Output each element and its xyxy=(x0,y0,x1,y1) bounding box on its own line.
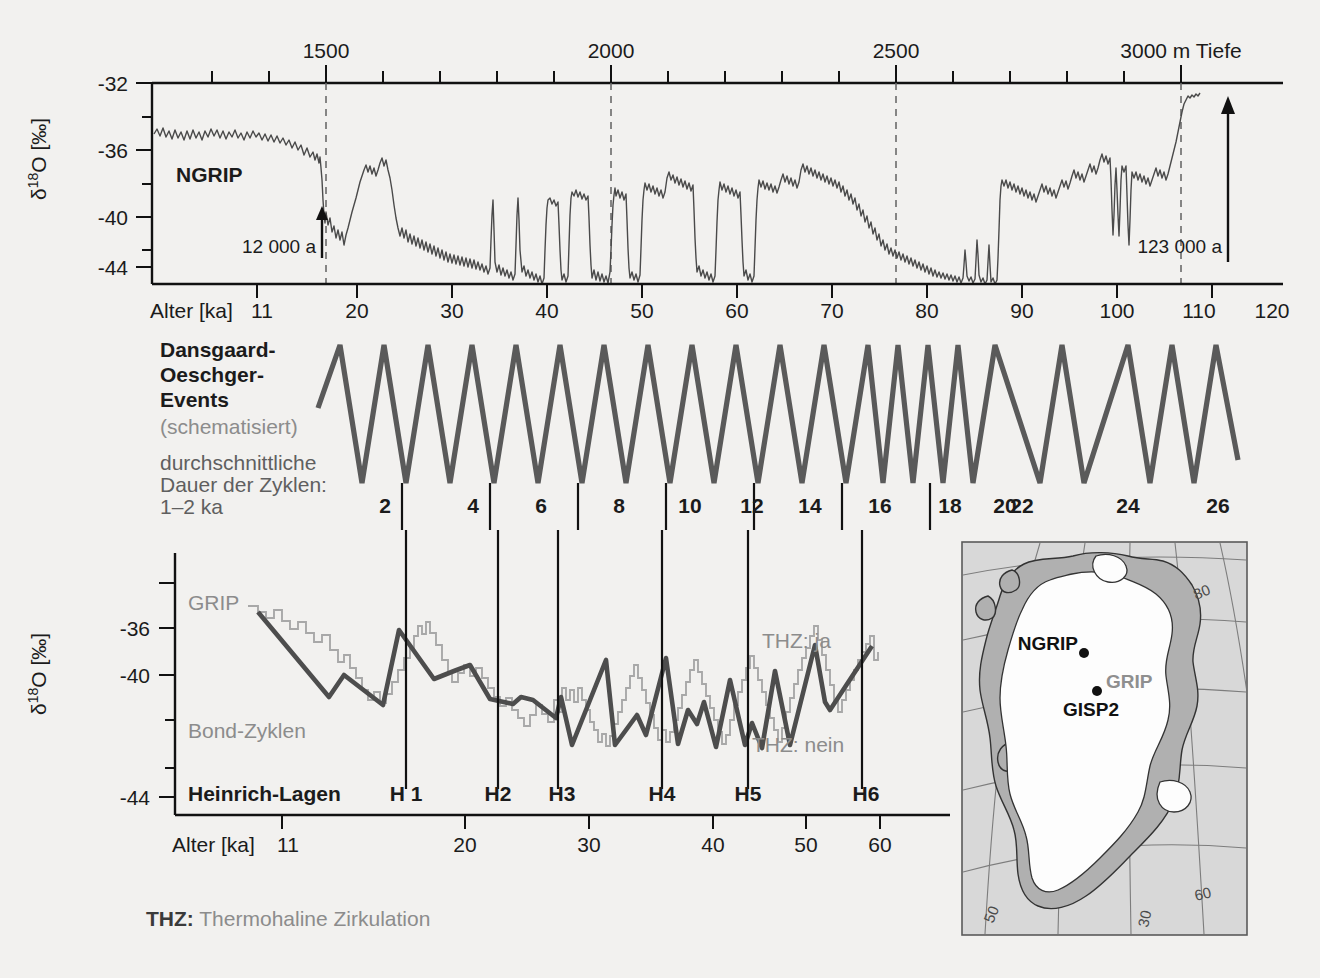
grip-series-label: GRIP xyxy=(188,591,239,614)
bond-x-label-11: 11 xyxy=(277,833,299,856)
ngrip-age-label-50: 50 xyxy=(630,299,653,322)
ngrip-age-label-11: 11 xyxy=(251,299,273,322)
ngrip-y-label--36: -36 xyxy=(98,139,128,162)
depth-tick-label-1500: 1500 xyxy=(303,39,350,62)
site-marker-grip xyxy=(1092,686,1102,696)
footnote: THZ: Thermohaline Zirkulation xyxy=(146,907,430,930)
ngrip-age-label-40: 40 xyxy=(535,299,558,322)
bond-x-label-20: 20 xyxy=(453,833,476,856)
do-event-label-22: 22 xyxy=(1010,494,1033,517)
bond-x-label-50: 50 xyxy=(794,833,817,856)
heinrich-label-h5: H5 xyxy=(735,782,762,805)
ngrip-y-label--40: -40 xyxy=(98,206,128,229)
do-subtitle: (schematisiert) xyxy=(160,415,298,438)
depth-tick-label-2000: 2000 xyxy=(588,39,635,62)
do-event-label-16: 16 xyxy=(868,494,891,517)
ngrip-age-label-20: 20 xyxy=(345,299,368,322)
heinrich-row-label: Heinrich-Lagen xyxy=(188,782,341,805)
ngrip-age-axis-title: Alter [ka] xyxy=(150,299,233,322)
bond-y-label--36: -36 xyxy=(120,617,150,640)
do-event-label-8: 8 xyxy=(613,494,625,517)
site-marker-ngrip xyxy=(1079,648,1089,658)
footnote-abbrev: THZ: xyxy=(146,907,194,930)
do-event-label-24: 24 xyxy=(1116,494,1140,517)
heinrich-label-h4: H4 xyxy=(649,782,676,805)
annotation-12000a-label: 12 000 a xyxy=(242,236,316,257)
thz-no-label: THZ: nein xyxy=(752,733,844,756)
site-label-grip: GRIP xyxy=(1106,671,1153,692)
bond-y-sup: 18 xyxy=(25,688,41,704)
ngrip-y-label--32: -32 xyxy=(98,72,128,95)
ngrip-y-label--44: -44 xyxy=(98,256,129,279)
ngrip-age-label-120: 120 xyxy=(1254,299,1289,322)
heinrich-label-h6: H6 xyxy=(853,782,880,805)
do-note-line1: durchschnittliche xyxy=(160,451,316,474)
annotation-123000a-label: 123 000 a xyxy=(1137,236,1222,257)
ngrip-age-label-110: 110 xyxy=(1182,299,1215,322)
heinrich-label-h1: H 1 xyxy=(390,782,423,805)
do-event-label-4: 4 xyxy=(467,494,479,517)
depth-tick-label-3000: 3000 m Tiefe xyxy=(1120,39,1241,62)
figure-root: 1500 2000 2500 3000 m Tiefe -32 -36 -40 … xyxy=(0,0,1320,978)
heinrich-label-h2: H2 xyxy=(485,782,512,805)
ngrip-age-label-80: 80 xyxy=(915,299,938,322)
map-grid-label-30: 30 xyxy=(1134,909,1154,929)
bond-x-label-30: 30 xyxy=(577,833,600,856)
site-label-gisp2: GISP2 xyxy=(1063,699,1119,720)
do-event-label-10: 10 xyxy=(678,494,701,517)
footnote-text: Thermohaline Zirkulation xyxy=(194,907,431,930)
do-note-line2: Dauer der Zyklen: xyxy=(160,473,327,496)
ngrip-age-label-100: 100 xyxy=(1099,299,1134,322)
svg-text:THZ: Thermohaline Zirkulation: THZ: Thermohaline Zirkulation xyxy=(146,907,430,930)
ngrip-age-label-70: 70 xyxy=(820,299,843,322)
bond-x-axis-title: Alter [ka] xyxy=(172,833,255,856)
do-note-line3: 1–2 ka xyxy=(160,495,223,518)
ngrip-y-sup: 18 xyxy=(25,173,41,189)
site-label-ngrip: NGRIP xyxy=(1018,633,1079,654)
bond-y-label--40: -40 xyxy=(120,664,150,687)
ngrip-age-label-60: 60 xyxy=(725,299,748,322)
figure-svg: 1500 2000 2500 3000 m Tiefe -32 -36 -40 … xyxy=(0,0,1320,978)
do-event-label-26: 26 xyxy=(1206,494,1229,517)
ngrip-age-label-30: 30 xyxy=(440,299,463,322)
do-title-line1: Dansgaard- xyxy=(160,338,276,361)
bond-x-label-40: 40 xyxy=(701,833,724,856)
do-event-label-2: 2 xyxy=(379,494,391,517)
do-title-line3: Events xyxy=(160,388,229,411)
do-event-label-6: 6 xyxy=(535,494,547,517)
ngrip-y-delta: δ xyxy=(27,188,50,200)
do-event-label-12: 12 xyxy=(740,494,763,517)
bond-series-label: Bond-Zyklen xyxy=(188,719,306,742)
depth-tick-label-2500: 2500 xyxy=(873,39,920,62)
ngrip-series-label: NGRIP xyxy=(176,163,243,186)
map-inset-greenland: 80 60 50 30 NGRIP GRIP GISP2 xyxy=(962,542,1276,935)
do-title-line2: Oeschger- xyxy=(160,363,264,386)
heinrich-label-h3: H3 xyxy=(549,782,576,805)
bond-y-unit: O [‰] xyxy=(27,633,50,688)
do-event-label-18: 18 xyxy=(938,494,962,517)
thz-yes-label: THZ: ja xyxy=(762,629,831,652)
ngrip-y-unit: O [‰] xyxy=(27,118,50,173)
ngrip-age-label-90: 90 xyxy=(1010,299,1033,322)
do-event-label-14: 14 xyxy=(798,494,822,517)
bond-x-label-60: 60 xyxy=(868,833,891,856)
bond-y-label--44: -44 xyxy=(120,786,151,809)
bond-y-delta: δ xyxy=(27,703,50,715)
